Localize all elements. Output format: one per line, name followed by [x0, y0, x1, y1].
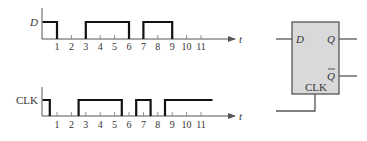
tick-label: 1: [55, 41, 60, 52]
clk-pin-label: CLK: [305, 81, 327, 93]
tick-label: 7: [141, 41, 146, 52]
d-flip-flop: D Q Q CLK: [276, 22, 357, 111]
tick-label: 11: [196, 119, 206, 130]
tick-label: 8: [155, 41, 160, 52]
tick-label: 5: [112, 41, 117, 52]
clk-ticks: 1234567891011: [55, 112, 206, 130]
clk-waveform-panel: CLK t 1234567891011: [16, 87, 243, 130]
d-time-axis-label: t: [239, 33, 243, 45]
d-signal-label: D: [29, 16, 38, 28]
tick-label: 9: [170, 41, 175, 52]
clk-input-wire: [276, 94, 315, 111]
tick-label: 6: [127, 119, 132, 130]
q-pin-label: Q: [327, 33, 335, 45]
d-ticks: 1234567891011: [55, 35, 206, 52]
tick-label: 2: [69, 119, 74, 130]
tick-label: 6: [127, 41, 132, 52]
tick-label: 10: [182, 119, 192, 130]
tick-label: 8: [155, 119, 160, 130]
tick-label: 3: [83, 41, 88, 52]
tick-label: 11: [196, 41, 206, 52]
q-bar-pin-label: Q: [327, 70, 335, 82]
tick-label: 5: [112, 119, 117, 130]
clk-time-axis-label: t: [239, 110, 243, 122]
tick-label: 9: [170, 119, 175, 130]
tick-label: 1: [55, 119, 60, 130]
clk-waveform: [43, 100, 213, 116]
clk-signal-label: CLK: [16, 94, 38, 106]
tick-label: 7: [141, 119, 146, 130]
d-pin-label: D: [295, 33, 304, 45]
tick-label: 2: [69, 41, 74, 52]
d-waveform-panel: D t 1234567891011: [29, 8, 243, 52]
tick-label: 4: [98, 41, 103, 52]
tick-label: 10: [182, 41, 192, 52]
d-waveform: [43, 22, 173, 39]
timing-diagram: D t 1234567891011 CLK t 1234567891011 D …: [0, 0, 367, 141]
tick-label: 4: [98, 119, 103, 130]
tick-label: 3: [83, 119, 88, 130]
